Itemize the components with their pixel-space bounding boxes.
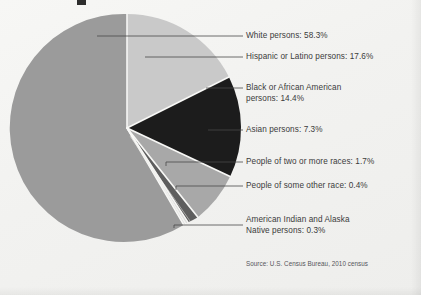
source-attribution: Source: U.S. Census Bureau, 2010 census — [246, 260, 368, 267]
chart-figure: White persons: 58.3% Hispanic or Latino … — [0, 0, 421, 295]
pie-chart-canvas — [0, 0, 421, 295]
pie-label-white-persons: White persons: 58.3% — [246, 31, 328, 42]
pie-label-asian-persons: Asian persons: 7.3% — [246, 125, 323, 136]
leader-line-american-indian-and-alaska-native-persons — [174, 225, 243, 228]
pie-label-hispanic-or-latino-persons: Hispanic or Latino persons: 17.6% — [246, 52, 373, 63]
pie-label-black-or-african-american-persons: Black or African American persons: 14.4% — [246, 83, 341, 104]
pie-label-american-indian-and-alaska-native-persons: American Indian and Alaska Native person… — [246, 215, 350, 236]
pie-label-people-of-some-other-race: People of some other race: 0.4% — [246, 181, 368, 192]
pie-label-people-of-two-or-more-races: People of two or more races: 1.7% — [246, 157, 374, 168]
pie-slices — [10, 14, 241, 242]
